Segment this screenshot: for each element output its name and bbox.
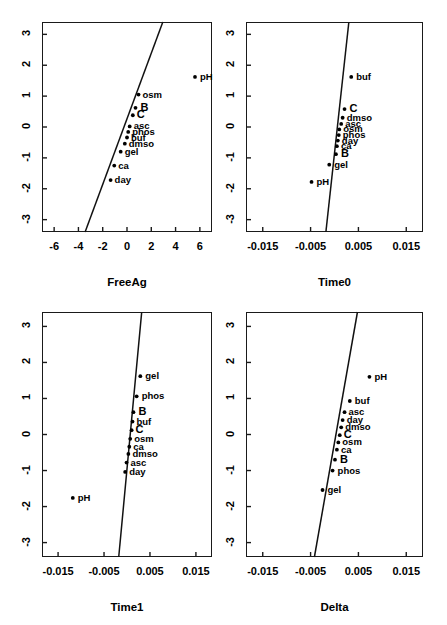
y-tick-label: -1 bbox=[224, 147, 236, 167]
y-tick-label: -1 bbox=[224, 460, 236, 480]
x-tick-label: 0.015 bbox=[378, 240, 434, 252]
y-tick-label: -3 bbox=[20, 209, 32, 229]
y-tick-label: 2 bbox=[224, 54, 236, 74]
y-tick-label: 3 bbox=[20, 23, 32, 43]
point-label: pH bbox=[317, 177, 330, 187]
y-tick-label: -2 bbox=[20, 178, 32, 198]
point-label: gel bbox=[328, 485, 342, 495]
y-tick-label: -1 bbox=[20, 460, 32, 480]
point-label: pH bbox=[200, 72, 213, 82]
point-label: phos bbox=[142, 391, 165, 401]
x-axis-title: Time1 bbox=[42, 601, 212, 613]
plot-frame bbox=[246, 22, 423, 232]
x-axis-title: FreeAg bbox=[42, 276, 212, 288]
y-tick-label: 0 bbox=[20, 424, 32, 444]
y-tick-label: -3 bbox=[224, 209, 236, 229]
x-tick-label: 0.015 bbox=[378, 565, 434, 577]
y-tick-label: -2 bbox=[224, 496, 236, 516]
y-tick-label: -1 bbox=[20, 147, 32, 167]
y-tick-label: 3 bbox=[224, 315, 236, 335]
y-tick-label: 3 bbox=[224, 23, 236, 43]
y-tick-label: -3 bbox=[20, 532, 32, 552]
point-label: C bbox=[137, 109, 145, 120]
y-tick-label: -3 bbox=[224, 532, 236, 552]
y-tick-label: 1 bbox=[20, 85, 32, 105]
y-tick-label: 0 bbox=[224, 116, 236, 136]
point-label: day bbox=[115, 175, 131, 185]
x-tick-label: 6 bbox=[172, 240, 228, 252]
point-label: phos bbox=[338, 466, 361, 476]
point-label: osm bbox=[143, 90, 163, 100]
point-label: pH bbox=[374, 372, 387, 382]
point-label: buf bbox=[355, 396, 370, 406]
point-label: B bbox=[341, 148, 349, 159]
y-tick-label: 0 bbox=[20, 116, 32, 136]
y-tick-label: 3 bbox=[20, 315, 32, 335]
y-tick-label: 2 bbox=[224, 351, 236, 371]
y-tick-label: 2 bbox=[20, 54, 32, 74]
y-tick-label: -2 bbox=[20, 496, 32, 516]
y-tick-label: 1 bbox=[20, 387, 32, 407]
plot-frame bbox=[42, 22, 212, 232]
point-label: pH bbox=[78, 493, 91, 503]
point-label: gel bbox=[334, 160, 348, 170]
point-label: day bbox=[129, 467, 145, 477]
plot-frame bbox=[42, 312, 212, 557]
y-tick-label: 2 bbox=[20, 351, 32, 371]
point-label: gel bbox=[145, 371, 159, 381]
y-tick-label: 1 bbox=[224, 85, 236, 105]
plot-frame bbox=[246, 312, 423, 557]
point-label: buf bbox=[356, 72, 371, 82]
x-tick-label: 0.015 bbox=[168, 565, 224, 577]
x-axis-title: Delta bbox=[246, 601, 423, 613]
y-tick-label: -2 bbox=[224, 178, 236, 198]
point-label: gel bbox=[125, 147, 139, 157]
y-tick-label: 1 bbox=[224, 387, 236, 407]
y-tick-label: 0 bbox=[224, 424, 236, 444]
x-axis-title: Time0 bbox=[246, 276, 423, 288]
point-label: B bbox=[340, 454, 348, 465]
point-label: ca bbox=[118, 161, 129, 171]
figure-canvas: pHosmBCascphosbufdmsogelcaday-3-2-10123-… bbox=[0, 0, 447, 625]
